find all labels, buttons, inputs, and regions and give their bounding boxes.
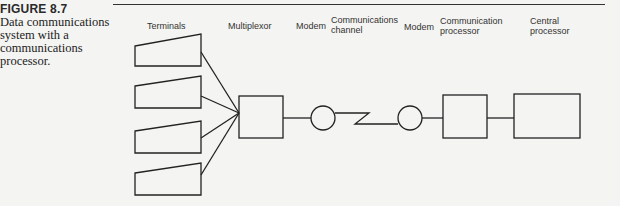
central-processor-box [514, 94, 580, 138]
communication-processor-box [443, 95, 487, 138]
terminal-3 [135, 121, 201, 153]
modem-2-circle [398, 106, 422, 130]
modem-1-circle [311, 106, 335, 130]
link-terminal-4 [201, 113, 239, 175]
terminal-4 [135, 163, 201, 195]
terminal-1 [135, 34, 201, 66]
link-terminal-3 [201, 113, 239, 138]
terminal-2 [135, 76, 201, 108]
diagram-canvas [0, 0, 620, 206]
multiplexor-box [239, 96, 283, 138]
communications-channel-zigzag [335, 113, 398, 124]
